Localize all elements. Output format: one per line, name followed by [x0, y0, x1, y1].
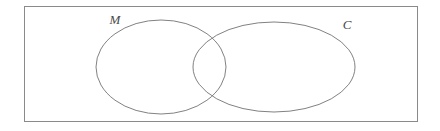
set-label-m: M [109, 12, 122, 27]
set-ellipse-c [193, 22, 355, 112]
set-label-c: C [343, 17, 352, 32]
venn-diagram-canvas: M C [0, 0, 440, 131]
universal-set-rectangle [25, 7, 418, 122]
venn-diagram-figure: M C [0, 0, 440, 131]
set-ellipse-m [96, 20, 226, 114]
